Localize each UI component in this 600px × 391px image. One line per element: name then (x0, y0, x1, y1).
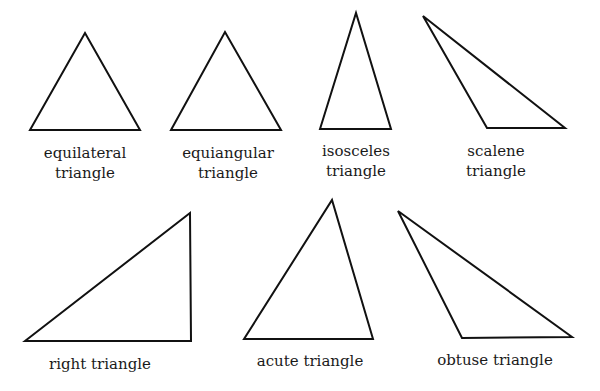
label-line: equiangular (182, 143, 274, 163)
label-line: triangle (322, 161, 390, 181)
isosceles-triangle-shape (320, 13, 391, 129)
acute-triangle-shape (244, 200, 373, 339)
right-triangle-shape (25, 213, 191, 341)
label-line: obtuse triangle (437, 350, 553, 370)
scalene-triangle-label: scalenetriangle (466, 141, 526, 181)
label-line: equilateral (44, 143, 127, 163)
equiangular-triangle-label: equiangulartriangle (182, 143, 274, 183)
scalene-triangle-shape (423, 16, 565, 128)
equilateral-triangle-shape (30, 33, 140, 130)
label-line: triangle (44, 163, 127, 183)
label-line: right triangle (49, 354, 151, 374)
label-line: triangle (466, 161, 526, 181)
triangle-diagram (0, 0, 600, 391)
isosceles-triangle-label: isoscelestriangle (322, 141, 390, 181)
equilateral-triangle-label: equilateraltriangle (44, 143, 127, 183)
label-line: scalene (466, 141, 526, 161)
equiangular-triangle-shape (171, 32, 281, 130)
label-line: isosceles (322, 141, 390, 161)
obtuse-triangle-shape (398, 211, 572, 338)
obtuse-triangle-label: obtuse triangle (437, 350, 553, 370)
label-line: acute triangle (257, 351, 364, 371)
acute-triangle-label: acute triangle (257, 351, 364, 371)
label-line: triangle (182, 163, 274, 183)
right-triangle-label: right triangle (49, 354, 151, 374)
